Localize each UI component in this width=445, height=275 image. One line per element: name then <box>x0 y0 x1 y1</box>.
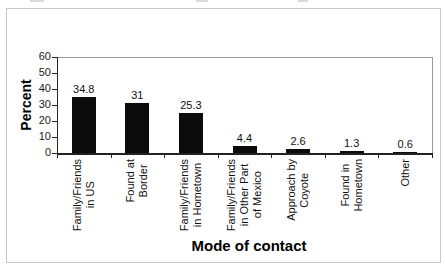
bar <box>179 113 203 153</box>
bar-value-label: 0.6 <box>383 138 427 150</box>
x-axis-tick <box>57 154 58 158</box>
y-tick-label: 30 <box>27 98 51 110</box>
y-tick-label: 40 <box>27 82 51 94</box>
x-axis-tick <box>325 154 326 158</box>
x-category-label: Found inHometown <box>339 159 365 212</box>
x-axis-tick <box>164 154 165 158</box>
y-axis-tick <box>52 137 57 138</box>
y-axis-tick <box>52 105 57 106</box>
bar <box>125 103 149 153</box>
x-category-label: Found atBorder <box>124 159 150 202</box>
x-axis-tick <box>218 154 219 158</box>
y-tick-label: 20 <box>27 114 51 126</box>
bar-value-label: 25.3 <box>169 99 213 111</box>
x-category-label: Family/Friendsin US <box>71 159 97 231</box>
x-axis-tick <box>432 154 433 158</box>
bar <box>286 149 310 153</box>
x-category-label: Family/Friendsin Other Partof Mexico <box>225 159 264 231</box>
bar <box>72 97 96 153</box>
y-axis-tick <box>52 121 57 122</box>
bar-value-label: 34.8 <box>62 83 106 95</box>
bar-value-label: 2.6 <box>276 135 320 147</box>
bar <box>233 146 257 153</box>
bar-value-label: 31 <box>115 89 159 101</box>
y-tick-label: 10 <box>27 130 51 142</box>
chart-area: Percent Mode of contact 010203040506034.… <box>0 0 445 275</box>
y-tick-label: 0 <box>27 146 51 158</box>
bar <box>340 151 364 153</box>
x-category-label: Approach byCoyote <box>285 159 311 221</box>
y-tick-label: 60 <box>27 50 51 62</box>
bar-value-label: 4.4 <box>223 132 267 144</box>
x-axis-tick <box>271 154 272 158</box>
x-axis-title: Mode of contact <box>149 237 349 254</box>
x-axis-tick <box>111 154 112 158</box>
x-category-label: Other <box>399 159 412 187</box>
y-axis-tick <box>52 73 57 74</box>
bar <box>393 152 417 153</box>
y-axis-line <box>57 57 58 154</box>
chart-figure: Percent Mode of contact 010203040506034.… <box>0 0 445 275</box>
y-tick-label: 50 <box>27 66 51 78</box>
x-category-label: Family/Friendsin Hometown <box>178 159 204 231</box>
x-axis-line <box>57 153 433 155</box>
bar-value-label: 1.3 <box>330 137 374 149</box>
y-axis-tick <box>52 89 57 90</box>
x-axis-tick <box>378 154 379 158</box>
y-axis-tick <box>52 57 57 58</box>
